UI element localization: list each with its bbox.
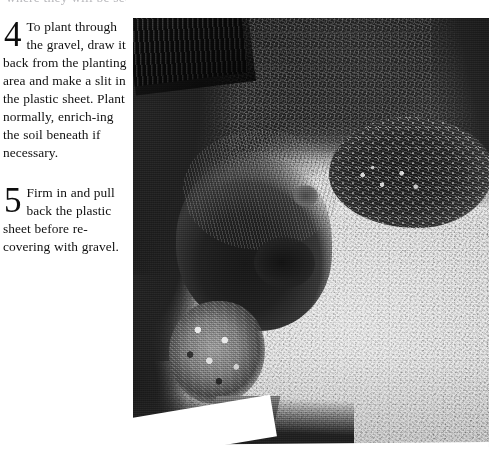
clipped-top-text-line: where they will be seen. bbox=[6, 0, 126, 5]
step-4-text: To plant through the gravel, draw it bac… bbox=[3, 18, 127, 162]
lower-dark-clump bbox=[254, 237, 315, 288]
small-gravel-tuft bbox=[293, 185, 318, 206]
instruction-step-5: 5 Firm in and pull back the plastic shee… bbox=[3, 184, 127, 256]
step-5-text: Firm in and pull back the plastic sheet … bbox=[3, 184, 127, 256]
step-number-4: 4 bbox=[4, 20, 22, 50]
garden-photograph bbox=[133, 18, 489, 447]
instruction-step-4: 4 To plant through the gravel, draw it b… bbox=[3, 18, 127, 162]
scanned-book-page: where they will be seen. 4 To plant thro… bbox=[0, 0, 504, 462]
photograph-canvas bbox=[133, 18, 489, 447]
step-number-5: 5 bbox=[4, 186, 22, 216]
right-bed-pale-flowers bbox=[347, 160, 425, 199]
instruction-text-column: 4 To plant through the gravel, draw it b… bbox=[3, 18, 127, 270]
